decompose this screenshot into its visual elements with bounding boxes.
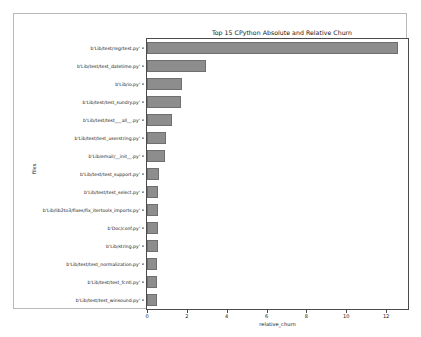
bar-row (147, 150, 408, 161)
y-axis-tick-label: b'Lib/test/test_support.py' (80, 172, 140, 177)
x-axis-tick-label: 12 (383, 313, 389, 319)
y-axis-tick-label: b'Lib/lib2to3/fixes/fix_itertools_import… (43, 208, 140, 213)
bar-row (147, 60, 408, 71)
bar[interactable] (147, 78, 182, 89)
y-axis-tick-mark (142, 84, 145, 85)
bar[interactable] (147, 96, 181, 107)
bar[interactable] (147, 240, 158, 251)
bar-row (147, 186, 408, 197)
bar-row (147, 78, 408, 89)
y-axis-tick-label: b'Doc/conf.py' (108, 226, 141, 231)
y-axis-tick-label: b'Lib/test/test_select.py' (84, 190, 140, 195)
bar[interactable] (147, 132, 166, 143)
bar-row (147, 222, 408, 233)
y-axis-tick-mark (142, 48, 145, 49)
x-axis-tick-label: 8 (305, 313, 308, 319)
bar-row (147, 132, 408, 143)
bar[interactable] (147, 60, 206, 71)
bar[interactable] (147, 168, 159, 179)
bar[interactable] (147, 276, 157, 287)
y-axis-tick-label: b'Lib/email/__init__.py' (88, 154, 140, 159)
y-axis-tick-mark (142, 138, 145, 139)
bar-row (147, 294, 408, 305)
y-axis-tick-mark (142, 192, 145, 193)
x-axis-tick-label: 6 (265, 313, 268, 319)
x-axis-tick-label: 4 (225, 313, 228, 319)
bar[interactable] (147, 204, 158, 215)
y-axis-tick-label: b'Lib/test/test_userstring.py' (74, 136, 140, 141)
bars-layer (147, 39, 408, 309)
bar-row (147, 168, 408, 179)
bar[interactable] (147, 294, 157, 305)
bar[interactable] (147, 258, 157, 269)
bar-row (147, 204, 408, 215)
bar[interactable] (147, 42, 398, 53)
bar-row (147, 240, 408, 251)
y-axis-tick-label: b'Lib/io.py' (115, 82, 140, 87)
y-axis-tick-mark (142, 210, 145, 211)
bar[interactable] (147, 186, 158, 197)
y-axis-tick-mark (142, 120, 145, 121)
y-axis-tick-mark (142, 228, 145, 229)
y-axis-tick-mark (142, 300, 145, 301)
y-axis-tick-label: b'Lib/test/test___all__.py' (83, 118, 140, 123)
y-axis-tick-mark (142, 156, 145, 157)
bar[interactable] (147, 114, 172, 125)
y-axis-tick-label: b'Lib/test/test_datetime.py' (77, 64, 140, 69)
bar-row (147, 258, 408, 269)
y-axis-tick-label: b'Lib/test/test_sundry.py' (83, 100, 140, 105)
y-axis-tick-mark (142, 66, 145, 67)
chart-title: Top 15 CPython Absolute and Relative Chu… (146, 29, 418, 36)
y-axis-tick-labels: b'Lib/test/regrtest.py'b'Lib/test/test_d… (14, 38, 144, 310)
bar-row (147, 96, 408, 107)
x-axis-tick-label: 0 (145, 313, 148, 319)
y-axis-tick-label: b'Lib/test/test_fcntl.py' (88, 280, 140, 285)
y-axis-tick-mark (142, 246, 145, 247)
y-axis-tick-label: b'Lib/test/test_normalization.py' (66, 262, 140, 267)
y-axis-tick-label: b'Lib/test/regrtest.py' (91, 46, 140, 51)
x-axis-tick-label: 10 (343, 313, 349, 319)
bar-row (147, 42, 408, 53)
plot-area (146, 38, 409, 310)
bar[interactable] (147, 150, 165, 161)
bar-row (147, 114, 408, 125)
y-axis-tick-label: b'Lib/string.py' (106, 244, 140, 249)
y-axis-tick-mark (142, 102, 145, 103)
figure-canvas: Top 15 CPython Absolute and Relative Chu… (13, 13, 407, 309)
x-axis-tick-label: 2 (185, 313, 188, 319)
x-axis-title: relative_churn (146, 321, 409, 327)
y-axis-tick-mark (142, 282, 145, 283)
y-axis-tick-mark (142, 174, 145, 175)
bar-row (147, 276, 408, 287)
y-axis-tick-mark (142, 264, 145, 265)
bar[interactable] (147, 222, 158, 233)
y-axis-tick-label: b'Lib/test/test_winsound.py' (76, 298, 140, 303)
